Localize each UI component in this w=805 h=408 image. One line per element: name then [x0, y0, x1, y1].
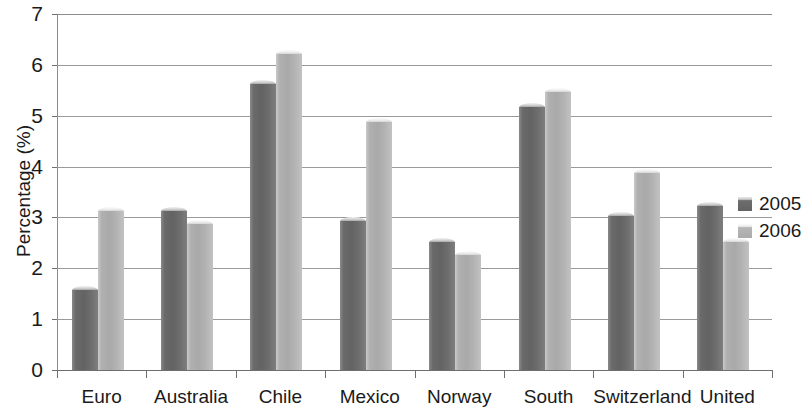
- bar-body: [608, 216, 634, 370]
- bar-2006-Chile: [276, 50, 302, 370]
- bar-2005-Mexico: [340, 217, 366, 370]
- bar-2006-Mexico: [366, 118, 392, 370]
- bar-body: [455, 255, 481, 371]
- bar-group: [57, 14, 146, 370]
- bar-2006-United: [723, 238, 749, 370]
- bar-body: [340, 221, 366, 370]
- y-tick-label: 1: [3, 308, 43, 329]
- bar-body: [366, 122, 392, 370]
- bar-body: [697, 206, 723, 370]
- bar-2005-Chile: [250, 80, 276, 370]
- bar-body: [634, 173, 660, 370]
- bar-2005-Switzerland: [608, 212, 634, 370]
- x-axis-label-australia: Australia: [146, 386, 235, 408]
- x-tick-mark: [57, 370, 58, 378]
- bar-body: [276, 54, 302, 370]
- y-tick-label: 4: [3, 156, 43, 177]
- bar-group: [236, 14, 325, 370]
- x-axis-label-south: South: [504, 386, 593, 408]
- plot-area: 76543210EuroAustraliaChileMexicoNorwaySo…: [57, 14, 772, 370]
- y-tick-label: 0: [3, 359, 43, 380]
- legend-label-2005: 2005: [759, 194, 801, 213]
- bar-2005-United: [697, 202, 723, 370]
- bar-2005-Euro: [72, 286, 98, 370]
- bar-2005-South: [519, 103, 545, 370]
- legend-item-2006: 2006: [738, 217, 801, 244]
- y-tick-label: 2: [3, 257, 43, 278]
- x-tick-mark: [236, 370, 237, 378]
- x-tick-mark: [593, 370, 594, 378]
- x-tick-mark: [504, 370, 505, 378]
- bar-group: [593, 14, 682, 370]
- bar-body: [519, 107, 545, 370]
- legend-label-2006: 2006: [759, 221, 801, 240]
- bar-body: [545, 92, 571, 370]
- bar-2005-Norway: [429, 238, 455, 370]
- y-tick-label: 5: [3, 105, 43, 126]
- bar-group: [415, 14, 504, 370]
- legend-swatch-2006-icon: [738, 224, 752, 238]
- x-axis-label-chile: Chile: [236, 386, 325, 408]
- x-axis-label-united: United: [683, 386, 772, 408]
- legend-swatch-2005-icon: [738, 197, 752, 211]
- x-tick-mark: [146, 370, 147, 378]
- legend-item-2005: 2005: [738, 190, 801, 217]
- x-tick-mark: [325, 370, 326, 378]
- legend: 2005 2006: [738, 190, 801, 244]
- bar-2006-Euro: [98, 207, 124, 370]
- x-axis-label-norway: Norway: [415, 386, 504, 408]
- bar-body: [187, 224, 213, 370]
- bar-2006-Australia: [187, 220, 213, 370]
- x-tick-mark: [415, 370, 416, 378]
- bar-group: [325, 14, 414, 370]
- x-axis-label-switzerland: Switzerland: [593, 386, 682, 408]
- bar-body: [161, 211, 187, 370]
- bar-body: [723, 242, 749, 370]
- bar-2005-Australia: [161, 207, 187, 370]
- x-tick-mark: [683, 370, 684, 378]
- y-tick-label: 7: [3, 3, 43, 24]
- bar-2006-Switzerland: [634, 169, 660, 370]
- bar-body: [98, 211, 124, 370]
- y-tick-label: 3: [3, 206, 43, 227]
- x-axis-label-euro: Euro: [57, 386, 146, 408]
- x-tick-mark: [772, 370, 773, 378]
- x-axis-label-mexico: Mexico: [325, 386, 414, 408]
- bar-body: [429, 242, 455, 370]
- bar-body: [250, 84, 276, 370]
- y-tick-label: 6: [3, 54, 43, 75]
- bar-2006-South: [545, 88, 571, 370]
- bar-group: [504, 14, 593, 370]
- bar-2006-Norway: [455, 251, 481, 371]
- bar-body: [72, 290, 98, 370]
- bar-group: [146, 14, 235, 370]
